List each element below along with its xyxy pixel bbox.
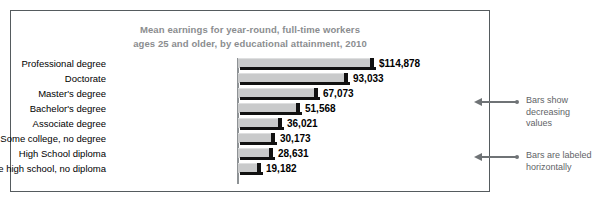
chart-title-line-2: ages 25 and older, by educational attain… <box>11 37 489 51</box>
bar-value-label: $114,878 <box>379 58 420 69</box>
bar-shadow <box>240 67 376 70</box>
callout-dot <box>515 100 519 104</box>
bar-row: Some high school, no diploma 19,182 <box>11 162 489 177</box>
chart-title: Mean earnings for year-round, full-time … <box>11 23 489 51</box>
bar-end-cap <box>271 133 275 142</box>
bar-shadow <box>240 157 275 160</box>
bar-category-label: High School diploma <box>19 148 106 160</box>
bar-category-label: Some college, no degree <box>0 133 106 145</box>
bar-shadow <box>240 142 277 145</box>
bar-end-cap <box>344 73 348 82</box>
bar-category-label: Some high school, no diploma <box>0 163 106 175</box>
callout-text: Bars show decreasing values <box>526 95 570 130</box>
bar-row: High School diploma 28,631 <box>11 147 489 162</box>
callout-leader-line <box>481 101 516 103</box>
bar-category-label: Doctorate <box>65 73 106 85</box>
chart-title-line-1: Mean earnings for year-round, full-time … <box>11 23 489 37</box>
bar-category-label: Professional degree <box>22 58 107 70</box>
bar-row: Professional degree $114,878 <box>11 57 489 72</box>
bar-category-label: Associate degree <box>33 118 106 130</box>
bar-value-label: 30,173 <box>280 133 311 144</box>
bar-shadow <box>240 172 263 175</box>
bar-shadow <box>240 127 284 130</box>
bar-value-label: 36,021 <box>287 118 318 129</box>
bar-value-label: 19,182 <box>266 163 297 174</box>
bar-value-label: 93,033 <box>353 73 384 84</box>
bar-value-label: 67,073 <box>323 88 354 99</box>
bar-row: Bachelor's degree 51,568 <box>11 102 489 117</box>
bar-end-cap <box>296 103 300 112</box>
bar-shadow <box>240 97 320 100</box>
bar-value-label: 51,568 <box>305 103 336 114</box>
bar-shadow <box>240 112 302 115</box>
callout-leader-line <box>481 156 516 158</box>
bar-end-cap <box>278 118 282 127</box>
bar-row: Associate degree 36,021 <box>11 117 489 132</box>
callout-dot <box>515 155 519 159</box>
callout-text: Bars are labeled horizontally <box>526 150 592 173</box>
bar-end-cap <box>370 58 374 67</box>
bar-category-label: Master's degree <box>38 88 106 100</box>
bar-category-label: Bachelor's degree <box>30 103 106 115</box>
bar-end-cap <box>314 88 318 97</box>
plot-area: Professional degree $114,878 Doctorate 9… <box>11 57 489 189</box>
bar-row: Master's degree 67,073 <box>11 87 489 102</box>
bar-row: Some college, no degree 30,173 <box>11 132 489 147</box>
bar-value-label: 28,631 <box>278 148 309 159</box>
chart-frame: Mean earnings for year-round, full-time … <box>10 10 490 192</box>
bar-row: Doctorate 93,033 <box>11 72 489 87</box>
bar-end-cap <box>269 148 273 157</box>
bar-shadow <box>240 82 350 85</box>
bar-end-cap <box>257 163 261 172</box>
